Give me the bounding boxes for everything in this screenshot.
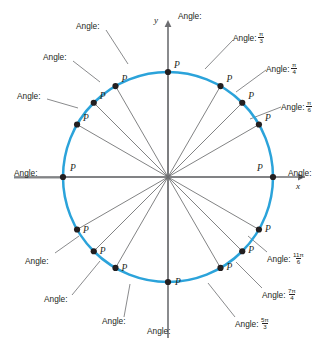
circle-point-p30 — [256, 121, 262, 127]
angle-label-text: Angle: — [267, 255, 291, 263]
point-label-p240: P — [122, 264, 128, 274]
leader-line-a120 — [106, 30, 128, 64]
angle-label-a30: Angle:π6 — [281, 100, 312, 114]
angle-label-a90: Angle: — [178, 12, 202, 20]
point-label-p30: P — [265, 114, 271, 124]
circle-point-p315 — [239, 248, 245, 254]
unit-circle-figure: PPPPPPPPPPPPPPPPAngle:Angle:Angle:Angle:… — [0, 0, 330, 348]
angle-ray-p225 — [94, 177, 168, 251]
fraction-denominator: 6 — [296, 258, 301, 265]
point-label-p45: P — [248, 92, 254, 102]
angle-ray-p300 — [168, 177, 221, 268]
angle-label-a120: Angle: — [76, 22, 100, 30]
angle-ray-p45 — [168, 103, 242, 177]
point-label-p150: P — [83, 114, 89, 124]
leader-line-a210 — [55, 236, 79, 253]
point-label-p90: P — [174, 61, 180, 71]
circle-point-p150 — [74, 121, 80, 127]
angle-value-fraction: π3 — [258, 31, 264, 45]
angle-ray-p315 — [168, 177, 242, 251]
leader-line-a60 — [205, 40, 233, 69]
angle-label-a225: Angle: — [44, 295, 68, 303]
point-label-p135: P — [100, 92, 106, 102]
angle-label-text: Angle: — [235, 320, 259, 328]
angle-ray-p210 — [77, 177, 168, 230]
circle-point-p330 — [256, 226, 262, 232]
angle-label-text: Angle: — [43, 53, 67, 61]
angle-value-fraction: 5π3 — [260, 317, 270, 331]
angle-label-a300: Angle:5π3 — [235, 317, 270, 331]
angle-label-text: Angle: — [17, 92, 41, 100]
angle-label-a135: Angle: — [43, 53, 67, 61]
circle-point-p45 — [239, 100, 245, 106]
y-axis-arrowhead — [165, 20, 172, 27]
circle-point-p270 — [165, 279, 171, 285]
angle-label-text: Angle: — [14, 169, 38, 177]
leader-line-a240 — [124, 284, 130, 317]
leader-line-a135 — [73, 61, 100, 82]
point-label-p270: P — [175, 278, 181, 288]
angle-ray-p240 — [116, 177, 169, 268]
circle-point-p300 — [217, 265, 223, 271]
angle-label-text: Angle: — [178, 12, 202, 20]
angle-label-a45: Angle:π4 — [266, 62, 297, 76]
angle-label-a180: Angle: — [14, 169, 38, 177]
point-label-p120: P — [122, 75, 128, 85]
x-axis-label: x — [296, 182, 300, 191]
leader-line-a300 — [208, 283, 235, 317]
angle-ray-p60 — [168, 86, 221, 177]
angle-value-fraction: π4 — [291, 62, 297, 76]
angle-value-fraction: 7π4 — [287, 288, 297, 302]
fraction-denominator: 4 — [291, 68, 296, 75]
angle-label-a240: Angle: — [102, 317, 126, 325]
circle-point-p210 — [74, 226, 80, 232]
angle-label-a210: Angle: — [25, 257, 49, 265]
angle-label-text: Angle: — [262, 291, 286, 299]
angle-label-a150: Angle: — [17, 92, 41, 100]
circle-point-p225 — [91, 248, 97, 254]
circle-point-p120 — [112, 83, 118, 89]
angle-ray-p135 — [94, 103, 168, 177]
angle-ray-p120 — [116, 86, 169, 177]
y-axis-label: y — [154, 16, 158, 25]
leader-line-a315 — [236, 262, 262, 288]
leader-line-a150 — [47, 99, 78, 108]
angle-label-text: Angle: — [25, 257, 49, 265]
angle-label-a270: Angle: — [147, 327, 171, 335]
angle-label-text: Angle: — [266, 65, 290, 73]
point-label-p315: P — [248, 246, 254, 256]
angle-label-text: Angle: — [44, 295, 68, 303]
angle-value-fraction: π6 — [306, 100, 312, 114]
angle-label-a315: Angle:7π4 — [262, 288, 297, 302]
angle-label-a0: Angle: — [288, 169, 312, 177]
circle-point-p240 — [112, 265, 118, 271]
circle-point-p60 — [217, 83, 223, 89]
circle-point-p0 — [270, 174, 276, 180]
leader-line-a225 — [72, 261, 100, 295]
fraction-denominator: 6 — [306, 106, 311, 113]
point-label-p225: P — [100, 247, 106, 257]
circle-point-p90 — [165, 69, 171, 75]
point-label-p60: P — [227, 75, 233, 85]
fraction-denominator: 3 — [258, 37, 263, 44]
angle-label-a330: Angle:11π6 — [267, 252, 305, 266]
point-label-p180: P — [70, 164, 76, 174]
angle-ray-p330 — [168, 177, 259, 230]
circle-point-p135 — [91, 100, 97, 106]
point-label-p330: P — [265, 225, 271, 235]
angle-value-fraction: 11π6 — [292, 252, 305, 266]
angle-label-text: Angle: — [147, 327, 171, 335]
angle-label-text: Angle: — [233, 34, 257, 42]
angle-ray-p150 — [77, 125, 168, 178]
point-label-p210: P — [83, 226, 89, 236]
angle-label-text: Angle: — [288, 169, 312, 177]
fraction-denominator: 4 — [289, 294, 294, 301]
leader-line-a45 — [236, 70, 266, 92]
angle-label-text: Angle: — [281, 103, 305, 111]
angle-ray-p30 — [168, 125, 259, 178]
fraction-denominator: 3 — [262, 323, 267, 330]
point-label-p300: P — [227, 263, 233, 273]
angle-label-text: Angle: — [76, 22, 100, 30]
angle-label-text: Angle: — [102, 317, 126, 325]
circle-point-p180 — [60, 174, 66, 180]
